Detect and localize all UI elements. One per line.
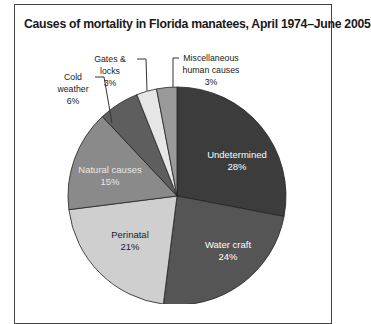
label-gates-locks: Gates & locks 3% — [84, 53, 136, 89]
gates-locks-name: Gates & locks — [84, 53, 136, 77]
leader-gates-locks — [137, 59, 147, 91]
label-natural: Natural causes — [78, 164, 142, 175]
misc-name-2: human causes — [179, 64, 243, 76]
misc-pct: 3% — [179, 76, 243, 88]
label-misc-human: Miscellaneous human causes 3% — [179, 52, 243, 88]
gates-locks-pct: 3% — [84, 77, 136, 89]
pct-watercraft: 24% — [218, 251, 238, 262]
cold-weather-pct: 6% — [50, 95, 96, 107]
pct-natural: 15% — [100, 176, 120, 187]
misc-name-1: Miscellaneous — [179, 52, 243, 64]
pct-undetermined: 28% — [227, 161, 247, 172]
pie-slices — [68, 87, 286, 304]
label-undetermined: Undetermined — [207, 149, 267, 160]
label-watercraft: Water craft — [205, 239, 251, 250]
pct-perinatal: 21% — [120, 241, 140, 252]
label-perinatal: Perinatal — [111, 229, 149, 240]
